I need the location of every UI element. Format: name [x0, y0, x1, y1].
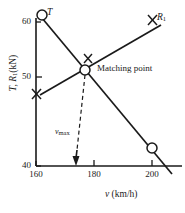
y-tick-label-60: 60 — [13, 17, 31, 26]
x-tick-label-200: 200 — [137, 170, 167, 179]
annotation-vmax: vmax — [55, 128, 70, 136]
marker-circle-t-end — [147, 143, 157, 153]
chart-figure: 60 50 40 160 180 200 T, R1(kN) v (km/h) … — [0, 0, 185, 213]
x-tick-label-180: 180 — [79, 170, 109, 179]
x-axis-label: v (km/h) — [105, 190, 137, 200]
series-label-r1: R1 — [157, 13, 166, 23]
y-axis-label-main: T, R — [8, 76, 18, 91]
annotation-matching-point: Matching point — [97, 64, 152, 73]
marker-circle-matching-point — [80, 65, 90, 75]
series-label-t: T — [47, 8, 52, 18]
chart-plot-area — [0, 0, 185, 213]
y-axis-label-subscript: 1 — [11, 73, 18, 76]
x-axis-label-main: v — [105, 189, 109, 199]
y-axis-label-unit: (kN) — [8, 55, 18, 73]
marker-x-matching — [84, 54, 92, 63]
marker-x-r1-end — [148, 15, 157, 25]
series-line-r1 — [40, 25, 161, 95]
vmax-arrow-head — [73, 156, 80, 166]
x-axis-label-unit: (km/h) — [112, 189, 138, 199]
y-axis-label: T, R1(kN) — [8, 38, 18, 108]
x-tick-label-160: 160 — [21, 170, 51, 179]
marker-circle-t-start — [37, 10, 47, 20]
vmax-dashed-line — [77, 75, 85, 150]
annotation-vmax-subscript: max — [59, 129, 70, 136]
series-label-r1-subscript: 1 — [163, 15, 166, 22]
